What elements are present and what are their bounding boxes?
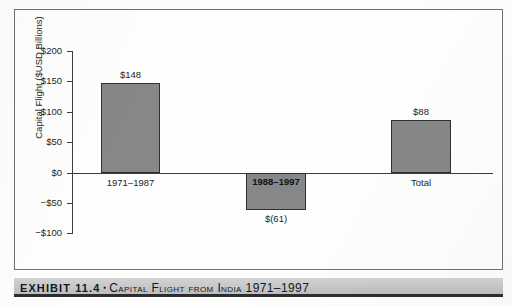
y-tick-label-50: $50 <box>10 137 62 147</box>
figure-page: Capital Flight ($USD Billions) $200 $150… <box>0 0 512 306</box>
exhibit-caption-text: EXHIBIT 11.4▪Capital Flight from India 1… <box>20 281 309 295</box>
figure-frame: Capital Flight ($USD Billions) $200 $150… <box>14 9 503 270</box>
bar-category-1988-1997: 1988–1997 <box>241 176 311 187</box>
bar-chart-plot-area: Capital Flight ($USD Billions) $200 $150… <box>15 10 504 271</box>
exhibit-title-label: Capital Flight from India 1971–1997 <box>109 281 309 295</box>
bar-1971-1987[interactable] <box>101 83 160 173</box>
exhibit-caption-band: EXHIBIT 11.4▪Capital Flight from India 1… <box>14 278 503 297</box>
bar-category-1971-1987: 1971–1987 <box>91 177 170 188</box>
bar-value-1971-1987: $148 <box>101 69 160 80</box>
y-tick-150 <box>67 81 73 82</box>
bar-value-1988-1997: $(61) <box>241 213 311 224</box>
bar-total[interactable] <box>391 120 451 173</box>
y-tick-label-100: $100 <box>10 107 62 117</box>
y-tick-neg50 <box>67 203 73 204</box>
y-tick-100 <box>67 112 73 113</box>
y-tick-0 <box>67 173 73 174</box>
bullet-separator-icon: ▪ <box>100 283 109 292</box>
y-tick-50 <box>67 142 73 143</box>
y-tick-neg100 <box>67 233 73 234</box>
exhibit-number-label: EXHIBIT 11.4 <box>20 282 100 294</box>
y-tick-label-200: $200 <box>10 46 62 56</box>
y-tick-label-neg100: −$100 <box>10 228 62 238</box>
bar-category-total: Total <box>391 177 451 188</box>
y-tick-label-neg50: −$50 <box>10 198 62 208</box>
bar-value-total: $88 <box>391 106 451 117</box>
y-tick-label-0: $0 <box>10 168 62 178</box>
y-tick-200 <box>67 51 73 52</box>
y-tick-label-150: $150 <box>10 76 62 86</box>
